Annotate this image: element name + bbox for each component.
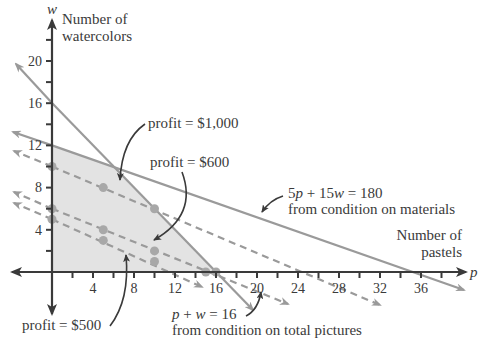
- linear-programming-chart: 4 8 12 16 20 24 28 32 36 4 8 12 16 20 w …: [0, 0, 484, 350]
- svg-text:4: 4: [35, 223, 42, 238]
- profit-500-label: profit = $500: [22, 317, 101, 333]
- profit-600-line: [14, 192, 52, 209]
- x-axis: [12, 272, 466, 278]
- total-pictures-equation: p + w = 16: [171, 306, 237, 322]
- total-pictures-note: from condition on total pictures: [172, 322, 362, 338]
- svg-text:32: 32: [373, 281, 387, 296]
- y-axis: [46, 20, 52, 314]
- profit-1000-line: [14, 151, 52, 167]
- profit-600-label: profit = $600: [150, 154, 229, 170]
- svg-text:12: 12: [28, 138, 42, 153]
- profit-1000-label: profit = $1,000: [148, 115, 239, 131]
- materials-pointer: [262, 196, 283, 212]
- svg-text:36: 36: [414, 281, 428, 296]
- svg-text:4: 4: [90, 281, 97, 296]
- svg-text:16: 16: [209, 281, 223, 296]
- materials-note: from condition on materials: [288, 201, 455, 217]
- svg-text:8: 8: [131, 281, 138, 296]
- y-axis-variable: w: [47, 1, 57, 17]
- y-axis-title-line1: Number of: [62, 11, 127, 27]
- x-axis-variable: p: [469, 264, 478, 280]
- y-axis-title-line2: watercolors: [62, 28, 132, 44]
- svg-text:8: 8: [35, 180, 42, 195]
- svg-text:20: 20: [250, 281, 264, 296]
- y-tick-labels: 4 8 12 16 20: [28, 54, 42, 238]
- svg-text:12: 12: [168, 281, 182, 296]
- materials-equation: 5p + 15w = 180: [288, 185, 382, 201]
- x-axis-title-line1: Number of: [397, 227, 462, 243]
- svg-text:24: 24: [291, 281, 305, 296]
- x-tick-labels: 4 8 12 16 20 24 28 32 36: [90, 281, 429, 296]
- x-axis-title-line2: pastels: [421, 244, 462, 260]
- svg-text:28: 28: [332, 281, 346, 296]
- svg-text:16: 16: [28, 96, 42, 111]
- svg-text:20: 20: [28, 54, 42, 69]
